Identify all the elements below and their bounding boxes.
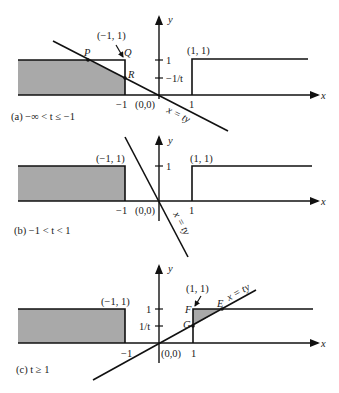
arrow-to-F: [195, 296, 201, 306]
label-Q: Q: [124, 47, 132, 58]
label-P: P: [83, 47, 91, 58]
panel-c: y x (−1, 1) (1, 1) F E G 1 1/t −1 (0,0) …: [16, 263, 326, 380]
tick-label-1-b: 1: [189, 205, 194, 216]
y-axis-label-b: y: [167, 135, 173, 146]
y-axis-label-c: y: [167, 263, 173, 274]
right-region-boundary-a: [192, 59, 308, 95]
tick-label-inv-t: 1/t: [139, 321, 150, 332]
arrow-to-Q: [116, 45, 123, 57]
tick-label-1-a: 1: [189, 99, 194, 110]
x-axis-label-a: x: [320, 90, 326, 101]
tick-label-1-c: 1: [191, 348, 196, 359]
point-G: [191, 324, 195, 328]
tick-label-neg1-c: −1: [121, 348, 132, 359]
right-region-boundary-b: [192, 166, 312, 201]
panel-a: y x (−1, 1) (1, 1) P Q R 1 −1/t −1 (0,0)…: [11, 14, 326, 131]
y-axis-label-a: y: [167, 14, 173, 25]
x-axis-label-c: x: [320, 338, 326, 349]
caption-c: (c) t ≥ 1: [16, 364, 49, 376]
label-1-1-c: (1, 1): [186, 283, 209, 295]
tick-label-neg-inv-t: −1/t: [166, 73, 183, 84]
label-G: G: [183, 319, 191, 330]
label-neg1-1-c: (−1, 1): [101, 296, 130, 308]
tick-label-y1-a: 1: [166, 55, 171, 66]
tick-label-neg1-a: −1: [116, 99, 127, 110]
caption-a: (a) −∞ < t ≤ −1: [11, 111, 75, 123]
shaded-region-a: [18, 60, 125, 95]
origin-label-c: (0,0): [161, 348, 182, 360]
tick-label-y1-c: 1: [146, 304, 151, 315]
label-E: E: [216, 298, 224, 309]
point-P: [86, 58, 90, 62]
label-F: F: [184, 304, 192, 315]
tick-label-y1-b: 1: [166, 161, 171, 172]
origin-label-a: (0,0): [135, 99, 156, 111]
panel-b: y x (−1, 1) (1, 1) 1 −1 (0,0) 1 x = ty (…: [14, 135, 326, 257]
caption-b: (b) −1 < t < 1: [14, 225, 71, 237]
label-neg1-1-b: (−1, 1): [96, 153, 125, 165]
origin-label-b: (0,0): [135, 205, 156, 217]
label-neg1-1-a: (−1, 1): [97, 30, 126, 42]
point-R: [123, 76, 127, 80]
label-1-1-b: (1, 1): [190, 153, 213, 165]
label-R: R: [127, 69, 135, 80]
line-x-equals-ty-b: [125, 137, 188, 257]
x-axis-label-b: x: [320, 196, 326, 207]
shaded-region-b: [18, 166, 125, 201]
figure-canvas: y x (−1, 1) (1, 1) P Q R 1 −1/t −1 (0,0)…: [0, 0, 339, 393]
shaded-region-c-left: [18, 309, 125, 343]
label-1-1-a: (1, 1): [187, 45, 210, 57]
tick-label-neg1-b: −1: [116, 205, 127, 216]
